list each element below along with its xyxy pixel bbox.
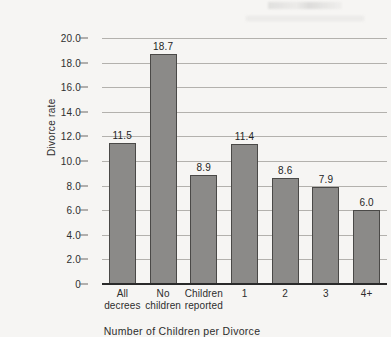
y-axis-tick-label: 14.0 — [33, 106, 81, 117]
y-axis-tick-label: 4.0 — [33, 229, 81, 240]
y-axis-tick-mark — [79, 111, 88, 112]
y-axis-tick-mark — [79, 210, 88, 211]
y-axis-tick-mark — [79, 234, 88, 235]
bar — [150, 54, 177, 284]
bar — [353, 210, 380, 284]
y-axis-tick-label: 8.0 — [33, 180, 81, 191]
y-axis-tick-mark — [79, 161, 88, 162]
bar — [190, 175, 217, 284]
y-axis-tick-mark — [79, 87, 88, 88]
y-axis-tick-mark — [79, 62, 88, 63]
bar — [272, 178, 299, 284]
y-axis-tick-mark — [79, 185, 88, 186]
x-axis-tick-label-line: reported — [173, 300, 235, 312]
x-axis-tick-label-line: 4+ — [336, 288, 391, 300]
gridline — [102, 38, 387, 39]
bar — [231, 144, 258, 284]
bar-value-label: 8.9 — [197, 162, 212, 173]
y-axis-tick-label: 0 — [33, 279, 81, 290]
x-axis-baseline — [102, 283, 387, 285]
y-axis-tick-label: 2.0 — [33, 254, 81, 265]
scan-artifact — [268, 2, 342, 9]
y-axis-tick-label: 18.0 — [33, 57, 81, 68]
x-axis-title: Number of Children per Divorce — [40, 325, 324, 337]
gridline — [102, 112, 387, 113]
plot-area: 02.04.06.08.010.012.014.016.018.020.0 11… — [102, 38, 387, 284]
bar-value-label: 11.5 — [113, 130, 133, 141]
divorce-rate-bar-chart: Divorce rate 02.04.06.08.010.012.014.016… — [40, 16, 324, 316]
y-axis-tick-label: 10.0 — [33, 156, 81, 167]
gridline — [102, 63, 387, 64]
bar — [109, 143, 136, 284]
bar-value-label: 11.4 — [235, 131, 255, 142]
bar-value-label: 8.6 — [278, 165, 293, 176]
y-axis-tick-mark — [79, 284, 88, 285]
y-axis-tick-mark — [79, 136, 88, 137]
y-axis-tick-mark — [79, 38, 88, 39]
x-axis-tick-label: 4+ — [336, 288, 391, 300]
bar-value-label: 18.7 — [153, 41, 173, 52]
bar-value-label: 7.9 — [319, 174, 334, 185]
y-axis-tick-label: 16.0 — [33, 82, 81, 93]
y-axis-tick-label: 12.0 — [33, 131, 81, 142]
y-axis-tick-label: 20.0 — [33, 33, 81, 44]
y-axis-tick-label: 6.0 — [33, 205, 81, 216]
gridline — [102, 87, 387, 88]
bar-value-label: 6.0 — [359, 197, 374, 208]
y-axis-tick-mark — [79, 259, 88, 260]
bar — [312, 187, 339, 284]
